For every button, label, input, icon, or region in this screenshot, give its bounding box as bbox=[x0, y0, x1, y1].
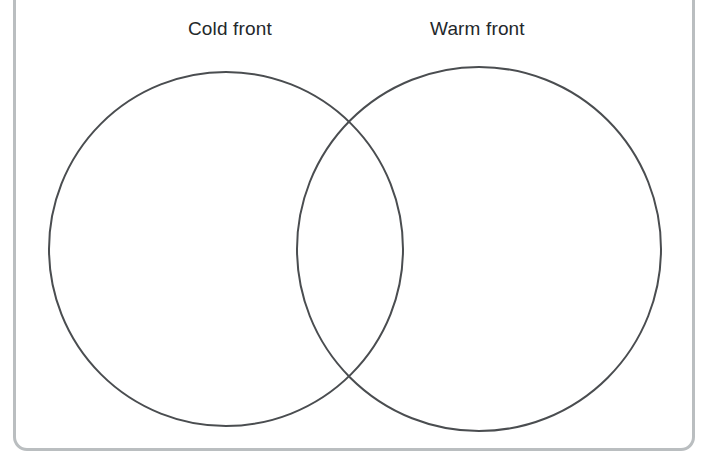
worksheet-page: Cold front Warm front bbox=[0, 0, 710, 469]
venn-label-right: Warm front bbox=[430, 18, 525, 40]
venn-circle-right[interactable] bbox=[297, 67, 661, 431]
venn-circle-left[interactable] bbox=[49, 72, 403, 426]
venn-label-left: Cold front bbox=[188, 18, 272, 40]
venn-diagram bbox=[0, 0, 710, 469]
